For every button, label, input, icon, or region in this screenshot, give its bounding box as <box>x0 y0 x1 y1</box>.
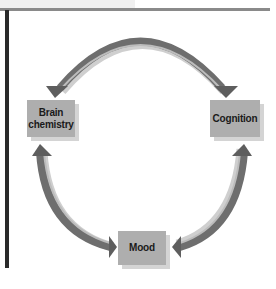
arrowhead-to-mood-left-icon <box>109 236 117 258</box>
arrow-brain-mood <box>32 144 117 258</box>
node-mood: Mood <box>118 231 166 265</box>
arrowhead-to-brain-lower-icon <box>32 144 52 156</box>
arrowhead-to-cognition-lower-icon <box>232 144 252 156</box>
arrowhead-to-mood-right-icon <box>172 236 181 258</box>
arrow-brain-cognition <box>46 42 238 99</box>
node-label: Mood <box>129 242 155 254</box>
node-label: Brain chemistry <box>27 107 75 131</box>
arrow-cognition-mood <box>172 144 252 258</box>
node-cognition: Cognition <box>210 100 260 137</box>
arrowhead-to-cognition-icon <box>214 86 238 98</box>
node-label: Cognition <box>213 113 258 125</box>
node-brain-chemistry: Brain chemistry <box>27 100 75 137</box>
